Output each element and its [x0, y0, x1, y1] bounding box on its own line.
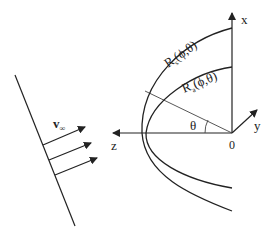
origin-label: 0: [229, 138, 235, 152]
velocity-arrow-2: [49, 143, 91, 160]
diagram-svg: v∞ z x y 0 θ Rs(ϕ,θ) Ra(ϕ,θ): [0, 0, 272, 235]
angle-arc: [205, 120, 208, 133]
z-axis-label: z: [111, 138, 117, 153]
diagram-canvas: v∞ z x y 0 θ Rs(ϕ,θ) Ra(ϕ,θ): [0, 0, 272, 235]
y-axis-label: y: [254, 118, 261, 133]
radial-line: [145, 91, 232, 133]
inner-curve-label: Ra(ϕ,θ): [180, 68, 220, 98]
outer-curve-label: Rs(ϕ,θ): [161, 37, 201, 72]
x-axis-label: x: [241, 12, 248, 27]
velocity-arrow-3: [55, 158, 97, 175]
angle-label: θ: [190, 118, 196, 133]
velocity-label: v∞: [53, 116, 66, 133]
inflow-plane-line: [15, 75, 75, 226]
